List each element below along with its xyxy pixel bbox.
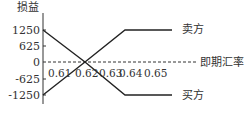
y-tick-neg625: -625: [0, 74, 40, 85]
y-axis-label: 损益: [17, 2, 39, 13]
x-tick-0.64: 0.64: [119, 68, 142, 79]
y-tick-0: 0: [0, 57, 40, 68]
series-buyer-line: [43, 30, 172, 95]
y-tick-neg1250: -1250: [0, 90, 40, 101]
legend-buyer-label: 买方: [182, 90, 204, 101]
x-tick-0.61: 0.61: [48, 68, 71, 79]
x-tick-0.62: 0.62: [75, 68, 98, 79]
y-tick-625: 625: [0, 41, 40, 52]
x-tick-0.65: 0.65: [144, 68, 167, 79]
x-axis-label: 即期汇率: [200, 57, 244, 68]
legend-seller-label: 卖方: [182, 24, 204, 35]
series-seller-line: [43, 30, 172, 95]
y-tick-1250: 1250: [0, 25, 40, 36]
